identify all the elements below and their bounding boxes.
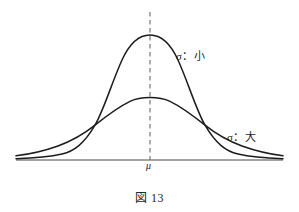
annotation-sigma-small: σ：小 bbox=[176, 51, 205, 62]
annotation-sigma-large: σ：大 bbox=[227, 132, 256, 143]
normal-distribution-figure: σ：小 σ：大 μ 図 13 bbox=[0, 0, 299, 212]
figure-caption: 図 13 bbox=[0, 188, 299, 206]
axis-label-mu: μ bbox=[146, 161, 151, 171]
distribution-plot-svg bbox=[0, 0, 299, 212]
